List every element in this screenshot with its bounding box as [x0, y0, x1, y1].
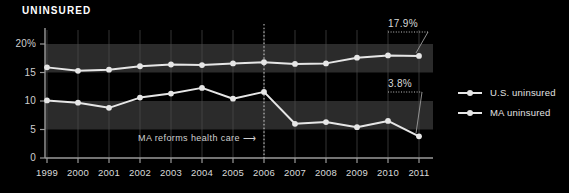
point-s0-2006 — [261, 59, 267, 65]
point-s0-2002 — [137, 63, 143, 69]
point-s0-2001 — [106, 67, 112, 73]
point-s1-2005 — [230, 96, 236, 102]
y-tick-label-15: 15 — [0, 67, 36, 78]
point-s0-2009 — [354, 55, 360, 61]
point-s1-2011 — [416, 133, 422, 139]
callout-label-us: 17.9% — [388, 18, 418, 29]
legend-marker-0 — [467, 90, 473, 96]
band-1 — [45, 101, 433, 130]
callout-label-ma: 3.8% — [388, 78, 412, 89]
point-s0-2005 — [230, 60, 236, 66]
y-tick-label-20: 20% — [0, 38, 36, 49]
point-s0-2000 — [75, 68, 81, 74]
point-s1-2002 — [137, 95, 143, 101]
point-s1-2010 — [385, 118, 391, 124]
point-s1-2006 — [261, 89, 267, 95]
legend-swatches — [458, 90, 482, 116]
uninsured-chart: UNINSURED 05101520% 19992000200120022003… — [0, 0, 569, 193]
point-s0-2004 — [199, 62, 205, 68]
point-s1-2004 — [199, 85, 205, 91]
point-s1-2001 — [106, 105, 112, 111]
y-tick-label-5: 5 — [0, 124, 36, 135]
legend-marker-1 — [467, 110, 473, 116]
y-tick-label-0: 0 — [0, 152, 36, 163]
point-s0-2008 — [323, 60, 329, 66]
chart-canvas — [0, 0, 569, 193]
point-s1-2009 — [354, 124, 360, 130]
point-s1-2008 — [323, 119, 329, 125]
band-0 — [45, 44, 433, 73]
point-s1-2000 — [75, 100, 81, 106]
point-s0-2010 — [385, 53, 391, 59]
x-tick-label-2011: 2011 — [399, 167, 439, 178]
legend-item-ma-uninsured[interactable]: MA uninsured — [490, 107, 551, 118]
point-s0-2011 — [416, 53, 422, 59]
y-tick-label-10: 10 — [0, 95, 36, 106]
point-s1-1999 — [44, 98, 50, 104]
point-s0-2007 — [292, 61, 298, 67]
point-s1-2003 — [168, 91, 174, 97]
legend-item-us-uninsured[interactable]: U.S. uninsured — [490, 87, 556, 98]
point-s0-1999 — [44, 64, 50, 70]
point-s0-2003 — [168, 62, 174, 68]
reform-event-label: MA reforms health care ⟶ — [138, 133, 256, 143]
point-s1-2007 — [292, 121, 298, 127]
